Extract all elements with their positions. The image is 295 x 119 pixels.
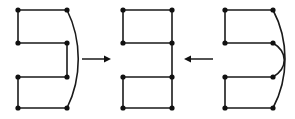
graph-figure-svg <box>0 0 295 119</box>
graph-middle <box>120 7 174 110</box>
graph-left-vertex-v8 <box>64 105 69 110</box>
graph-right <box>222 7 285 110</box>
graph-middle-vertices <box>120 7 174 110</box>
graph-middle-vertex-v5 <box>120 74 125 79</box>
arrow-right-head <box>104 56 111 63</box>
arrow-left-to-middle <box>82 56 111 63</box>
arrow-right-to-middle <box>184 56 213 63</box>
graph-left-vertex-v5 <box>15 74 20 79</box>
graph-left-edges <box>18 10 78 108</box>
graph-middle-vertex-v6 <box>169 74 174 79</box>
figure-root <box>0 0 295 119</box>
graph-right-vertex-v4 <box>270 40 275 45</box>
graph-left-vertex-v1 <box>15 7 20 12</box>
graph-right-vertex-v1 <box>222 7 227 12</box>
graph-left-vertices <box>15 7 69 110</box>
graph-right-vertex-v3 <box>222 40 227 45</box>
graph-right-vertex-v7 <box>222 105 227 110</box>
graph-left-vertex-v4 <box>64 40 69 45</box>
graph-right-inner-arc-edge <box>273 43 284 77</box>
graph-left-vertex-v6 <box>64 74 69 79</box>
graph-left-outer-arc-edge <box>67 10 78 108</box>
graph-right-vertex-v2 <box>270 7 275 12</box>
graph-middle-vertex-v1 <box>120 7 125 12</box>
arrow-left-head <box>184 56 191 63</box>
graph-right-vertex-v8 <box>270 105 275 110</box>
graph-left <box>15 7 78 110</box>
graph-middle-vertex-v2 <box>169 7 174 12</box>
graph-left-vertex-v7 <box>15 105 20 110</box>
graph-left-vertex-v2 <box>64 7 69 12</box>
graph-middle-vertex-v3 <box>120 40 125 45</box>
graph-right-vertex-v5 <box>222 74 227 79</box>
graph-middle-edges <box>123 10 172 108</box>
graph-middle-vertex-v4 <box>169 40 174 45</box>
graph-right-vertex-v6 <box>270 74 275 79</box>
graph-right-outer-arc-edge <box>273 10 285 108</box>
graph-middle-vertex-v8 <box>169 105 174 110</box>
graph-left-vertex-v3 <box>15 40 20 45</box>
graph-right-edges <box>225 10 285 108</box>
graph-right-vertices <box>222 7 275 110</box>
graph-middle-vertex-v7 <box>120 105 125 110</box>
